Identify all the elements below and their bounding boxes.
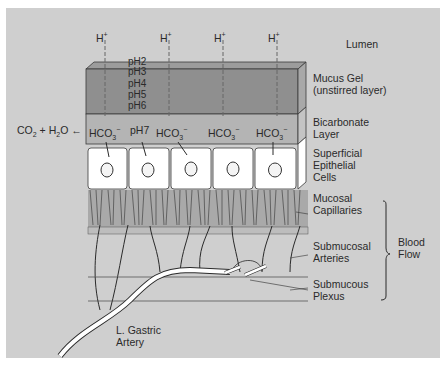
mucosal-capillaries <box>88 190 308 234</box>
submucous-plexus-lines <box>88 277 308 301</box>
hco3-label-3: HCO3− <box>208 124 239 144</box>
ph3-label: pH3 <box>128 66 146 78</box>
hco3-label-4: HCO3− <box>256 124 287 144</box>
mucus-gel-label: Mucus Gel(unstirred layer) <box>313 72 387 96</box>
mucus-gel-layer <box>86 62 306 114</box>
epithelial-cells-label: SuperficialEpithelialCells <box>313 147 362 183</box>
lumen-label: Lumen <box>346 38 378 50</box>
reaction-equation: CO2 + H2O ← <box>17 124 82 141</box>
bicarbonate-layer-label: BicarbonateLayer <box>313 116 369 140</box>
gastric-artery-label: L. GastricArtery <box>116 324 161 348</box>
h-plus-label-1: H+ <box>96 29 108 44</box>
h-plus-label-4: H+ <box>268 29 280 44</box>
h-plus-label-3: H+ <box>214 29 226 44</box>
hco3-label-2: HCO3− <box>156 124 187 144</box>
blood-flow-bracket <box>381 201 390 300</box>
gastric-artery <box>60 266 266 356</box>
blood-flow-label: BloodFlow <box>398 236 425 260</box>
submucosal-arteries-label: SubmucosalArteries <box>313 240 371 264</box>
submucous-plexus-label: SubmucousPlexus <box>313 278 368 302</box>
hco3-label-1: HCO3− <box>89 124 120 144</box>
ph7-label: pH7 <box>130 124 149 136</box>
ph6-label: pH6 <box>128 100 146 112</box>
mucosal-capillaries-label: MucosalCapillaries <box>313 192 362 216</box>
cell-nuclei <box>101 162 282 177</box>
h-plus-label-2: H+ <box>160 29 172 44</box>
gastric-mucosa-illustration <box>0 0 448 366</box>
